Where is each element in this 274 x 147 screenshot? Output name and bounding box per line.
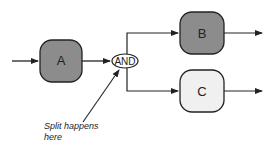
- node-c: C: [180, 70, 224, 112]
- annotation-pointer-arrow: [83, 70, 119, 122]
- node-a: A: [40, 40, 82, 82]
- node-b-label: B: [198, 26, 207, 41]
- annotation-line-2: here: [44, 132, 62, 142]
- node-a-label: A: [57, 53, 66, 68]
- split-arrow-to-b: [127, 33, 178, 54]
- annotation-line-1: Split happens: [44, 121, 99, 131]
- split-arrow-to-c: [127, 68, 178, 91]
- node-c-label: C: [197, 84, 206, 99]
- and-split-diagram: A AND B C Split happens here: [0, 0, 274, 147]
- node-b: B: [180, 12, 224, 54]
